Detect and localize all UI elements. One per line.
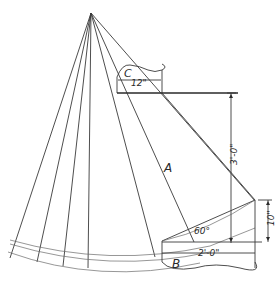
- cone-edge: [162, 93, 255, 200]
- development-radials: [10, 13, 255, 268]
- technical-drawing: C 12" A B 2'-0" 60° 3'-0" 10": [0, 0, 279, 284]
- label-pipe-b-text: B: [172, 257, 180, 271]
- dim-height: 3'-0": [229, 144, 239, 165]
- dim-angle: 60°: [194, 226, 210, 236]
- height-dimension: [227, 93, 236, 243]
- dim-bottom-diameter: 2'-0": [198, 248, 219, 258]
- dim-rise: 10": [266, 210, 276, 226]
- label-transition-a: A: [163, 161, 172, 175]
- dim-top-diameter: 12": [131, 78, 147, 88]
